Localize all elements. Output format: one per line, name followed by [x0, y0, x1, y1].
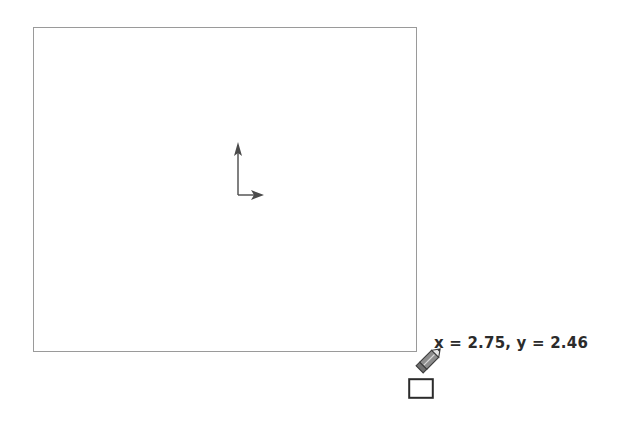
drawing-canvas[interactable]: x = 2.75, y = 2.46: [0, 0, 635, 430]
coordinate-readout: x = 2.75, y = 2.46: [434, 334, 588, 352]
axis-indicator: [228, 140, 270, 202]
rectangle-shape[interactable]: [33, 27, 417, 352]
axis-indicator-icon: [228, 140, 270, 202]
hotspot-marker-icon: [408, 378, 434, 399]
square-glyph: [408, 378, 434, 399]
